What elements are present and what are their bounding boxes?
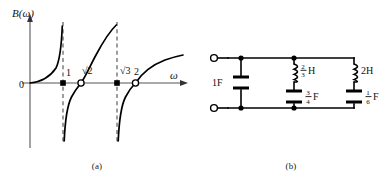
node-bottom-left [238, 105, 243, 110]
tick-label-sqrt3: √3 [120, 65, 131, 76]
panel-b-caption: (b) [194, 161, 388, 171]
capacitor-c2-denominator: 4 [306, 98, 310, 106]
inductor-l2 [354, 64, 358, 82]
capacitor-c1-label: 1F [212, 77, 223, 88]
x-axis [22, 80, 188, 86]
origin-label: 0 [19, 79, 24, 90]
panel-a-caption: (a) [0, 161, 194, 171]
zero-marker-2 [132, 80, 138, 86]
inductor-l1-label: 2 3 H [301, 63, 316, 80]
input-bottom-terminal [211, 105, 218, 112]
capacitor-c3-unit: F [373, 91, 379, 102]
y-axis [27, 14, 33, 148]
inductor-l1 [294, 64, 298, 82]
capacitor-c2-unit: F [313, 91, 319, 102]
inductor-l1-unit: H [308, 65, 315, 76]
figure-root: B(ω) ω 0 1 √2 √3 2 (a) [0, 0, 388, 177]
capacitor-c2-label: 3 4 F [306, 89, 320, 106]
capacitor-c2-numerator: 3 [306, 89, 310, 97]
input-top-terminal [211, 55, 218, 62]
inductor-l1-denominator: 3 [301, 71, 305, 79]
capacitor-c3-label: 1 6 F [366, 89, 380, 106]
panel-circuit-diagram: 1F 2 3 H 3 4 F [194, 0, 388, 177]
y-axis-label: B(ω) [12, 7, 34, 20]
tick-label-sqrt2: √2 [82, 65, 93, 76]
curve-branch-1 [30, 26, 62, 83]
pole-marker-1 [60, 80, 66, 86]
node-bottom-middle [291, 105, 296, 110]
node-top-middle [291, 55, 296, 60]
x-axis-label: ω [170, 69, 178, 81]
inductor-l1-numerator: 2 [301, 63, 305, 71]
circuit-svg: 1F 2 3 H 3 4 F [194, 0, 388, 150]
pole-marker-sqrt3 [114, 80, 120, 86]
zero-marker-sqrt2 [78, 80, 84, 86]
inductor-l2-label: 2H [361, 65, 373, 76]
node-top-left [238, 55, 243, 60]
capacitor-c3 [346, 91, 362, 102]
tick-label-1: 1 [66, 67, 71, 78]
capacitor-c3-denominator: 6 [366, 98, 370, 106]
tick-label-2: 2 [134, 66, 139, 77]
panel-susceptance-plot: B(ω) ω 0 1 √2 √3 2 (a) [0, 0, 194, 177]
capacitor-c2 [286, 91, 302, 102]
capacitor-c1 [233, 77, 249, 88]
capacitor-c3-numerator: 1 [366, 89, 370, 97]
susceptance-plot-svg: B(ω) ω 0 1 √2 √3 2 [0, 0, 194, 150]
